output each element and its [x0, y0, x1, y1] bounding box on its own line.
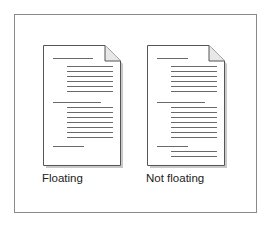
label-floating: Floating: [42, 172, 83, 184]
document-page-icon: [147, 45, 227, 169]
document-page-icon: [43, 45, 123, 169]
document-not-floating: [147, 45, 225, 166]
label-not-floating: Not floating: [146, 172, 204, 184]
document-floating: [43, 45, 121, 166]
